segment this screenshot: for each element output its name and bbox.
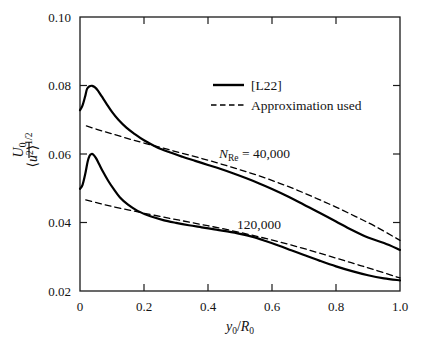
legend-label-l22: [L22] — [251, 78, 282, 93]
annotation-re-subscript: Re — [228, 153, 239, 163]
x-tick-label-2: 0.4 — [200, 299, 217, 314]
x-tick-label-3: 0.6 — [264, 299, 281, 314]
annotation-equals-value: = 40,000 — [239, 146, 291, 161]
x-axis-R-symbol: R — [240, 319, 250, 334]
y-tick-label-1: 0.04 — [48, 215, 71, 230]
x-tick-label-4: 0.8 — [328, 299, 344, 314]
figure-container: 00.20.40.60.81.0 0.020.040.060.080.10 [L… — [0, 0, 425, 340]
y-axis-u-symbol: u — [25, 155, 40, 162]
y-tick-label-0: 0.02 — [48, 284, 71, 299]
legend-label-approximation: Approximation used — [251, 98, 362, 113]
x-tick-label-0: 0 — [77, 299, 84, 314]
y-tick-label-4: 0.10 — [48, 10, 71, 25]
turbulence-intensity-chart: 00.20.40.60.81.0 0.020.040.060.080.10 [L… — [0, 0, 425, 340]
y-tick-label-3: 0.08 — [48, 78, 71, 93]
x-tick-label-1: 0.2 — [136, 299, 152, 314]
x-tick-label-5: 1.0 — [392, 299, 408, 314]
y-tick-label-2: 0.06 — [48, 147, 71, 162]
x-axis-R-subscript: 0 — [249, 326, 254, 336]
annotation-reynolds-120000: 120,000 — [237, 217, 281, 232]
y-axis-zero-subscript: 0 — [18, 142, 28, 147]
